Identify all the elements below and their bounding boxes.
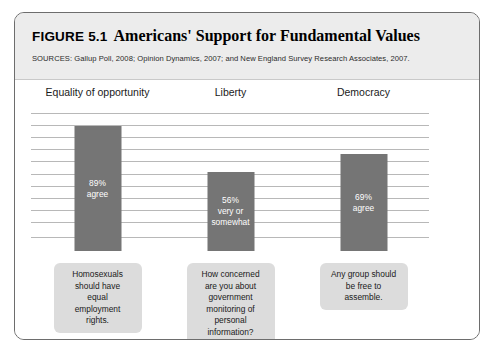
bar-value-label: 69% agree [352,192,375,214]
chart-columns: Equality of opportunity 89% agree Homose… [31,80,449,340]
chart-panel: Equality of opportunity 89% agree Homose… [15,79,480,340]
bar-democracy: 69% agree [340,154,387,251]
figure-frame: FIGURE 5.1Americans' Support for Fundame… [14,12,480,340]
bar-value-label: 56% very or somewhat [210,195,250,228]
chart-column-liberty: Liberty 56% very or somewhat How concern… [164,80,297,340]
question-box-text: How concerned are you about government m… [201,269,259,338]
bar-equality-of-opportunity: 89% agree [74,126,121,251]
figure-sources: SOURCES: Gallup Poll, 2008; Opinion Dyna… [32,54,410,63]
column-header-label: Liberty [164,86,297,98]
question-box-text: Any group should be free to assemble. [331,269,396,304]
figure-title: FIGURE 5.1Americans' Support for Fundame… [32,28,420,44]
question-box-democracy: Any group should be free to assemble. [320,263,408,310]
figure-number: FIGURE 5.1 [32,29,108,44]
question-box-equality-of-opportunity: Homosexuals should have equal employment… [54,263,142,333]
bar-liberty: 56% very or somewhat [207,172,254,251]
figure-header: FIGURE 5.1Americans' Support for Fundame… [15,13,479,79]
column-header-label: Democracy [297,86,430,98]
figure-headline: Americans' Support for Fundamental Value… [114,27,420,44]
bar-value-label: 89% agree [86,178,109,200]
question-box-text: Homosexuals should have equal employment… [72,269,123,327]
chart-column-equality-of-opportunity: Equality of opportunity 89% agree Homose… [31,80,164,340]
column-header-label: Equality of opportunity [31,86,164,98]
chart-column-democracy: Democracy 69% agree Any group should be … [297,80,430,340]
question-box-liberty: How concerned are you about government m… [187,263,275,340]
